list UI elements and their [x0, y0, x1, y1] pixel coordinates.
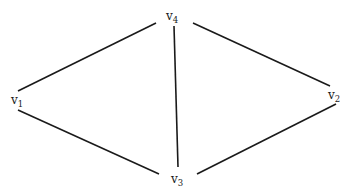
vertex-labels: v1 v2 v3 v4: [10, 9, 340, 188]
edges: [18, 23, 336, 174]
edge-v4-v1: [18, 23, 156, 91]
vertex-label-v1: v1: [10, 93, 23, 109]
edge-v2-v3: [197, 104, 336, 174]
vertex-label-v2: v2: [327, 88, 340, 104]
vertex-label-v4: v4: [165, 9, 178, 25]
edge-v1-v3: [18, 110, 159, 174]
vertex-label-v3: v3: [170, 172, 183, 188]
graph-diagram: v1 v2 v3 v4: [0, 0, 351, 194]
edge-v4-v3: [174, 26, 178, 167]
edge-v4-v2: [193, 23, 330, 86]
